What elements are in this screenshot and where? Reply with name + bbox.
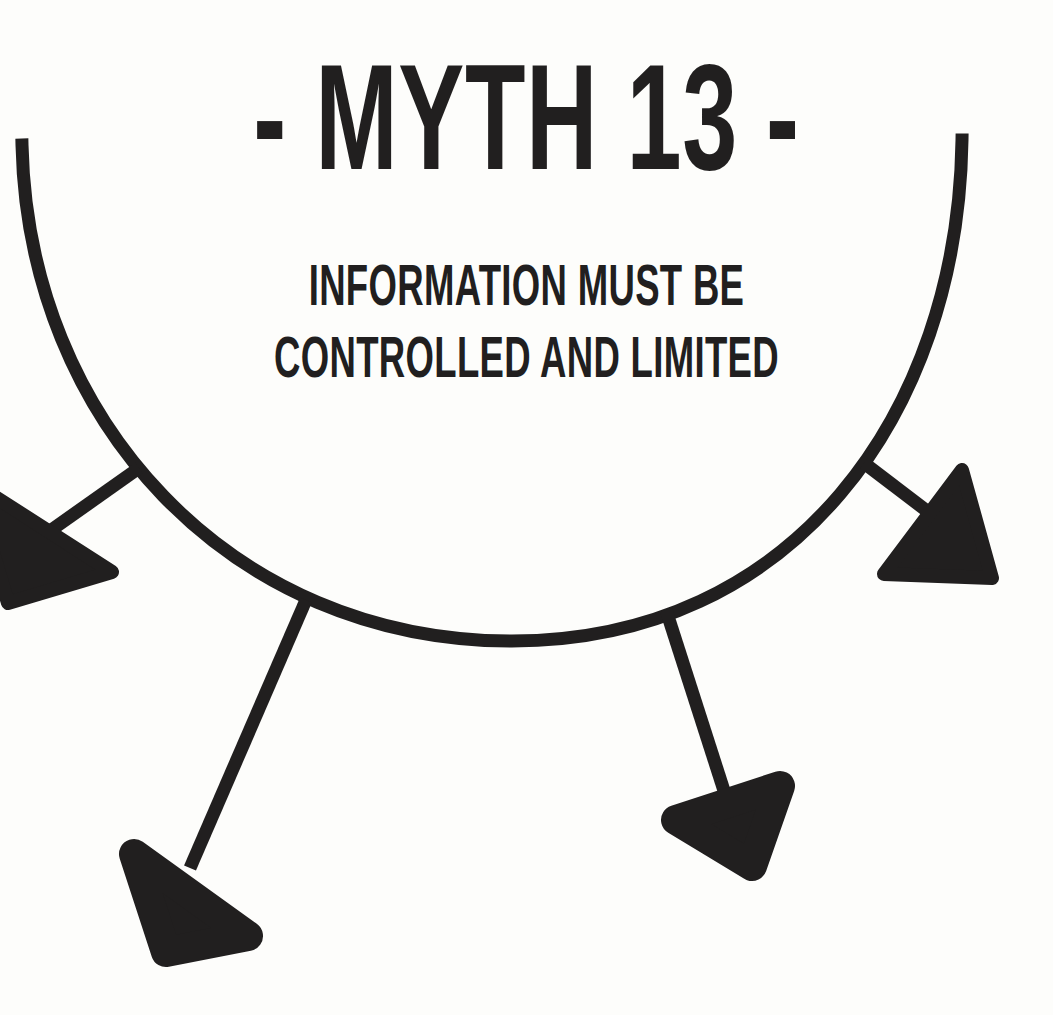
arrow-lower-right-stem bbox=[666, 610, 727, 800]
main-arc bbox=[22, 140, 962, 641]
arrow-lower-right-head-icon bbox=[676, 786, 780, 866]
arc-and-arrows-illustration bbox=[0, 0, 1053, 1015]
myth-poster: - MYTH 13 - INFORMATION MUST BE CONTROLL… bbox=[0, 0, 1053, 1015]
arrow-lower-left-stem bbox=[190, 600, 306, 868]
arrow-lower-left-head-icon bbox=[134, 854, 248, 952]
